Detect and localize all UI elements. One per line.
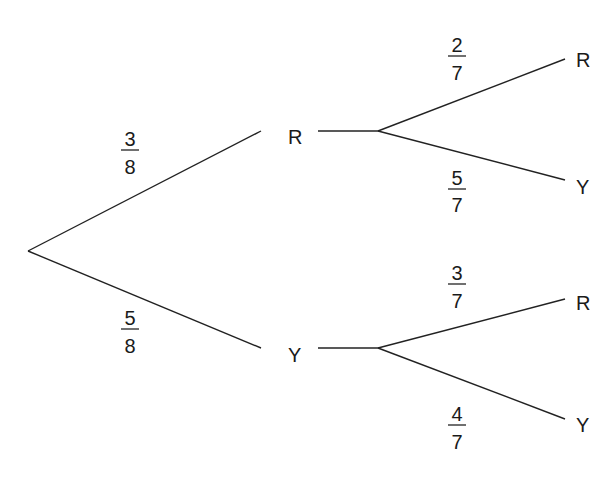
fraction-denominator: 8 xyxy=(124,156,135,178)
fraction-numerator: 3 xyxy=(451,262,462,284)
fraction-numerator: 5 xyxy=(451,167,462,189)
fraction-numerator: 2 xyxy=(451,34,462,56)
node-first-Y: Y xyxy=(288,344,301,366)
probability-tree-diagram: 1st Selection 2nd Selection 3 8 5 8 R Y … xyxy=(0,0,608,478)
node-R-R: R xyxy=(576,49,590,71)
fraction-denominator: 7 xyxy=(451,194,462,216)
node-Y-Y: Y xyxy=(576,414,589,436)
fraction-denominator: 7 xyxy=(451,431,462,453)
edge-root-to-Y xyxy=(28,251,261,348)
edge-R-to-R xyxy=(378,59,565,131)
fraction-Y-R: 3 7 xyxy=(448,262,466,312)
fraction-R-R: 2 7 xyxy=(448,34,466,84)
fraction-first-R: 3 8 xyxy=(121,128,139,178)
edge-Y-to-R xyxy=(378,299,565,348)
fraction-numerator: 5 xyxy=(124,307,135,329)
edge-root-to-R xyxy=(28,131,261,251)
fraction-first-Y: 5 8 xyxy=(121,307,139,357)
edge-R-to-Y xyxy=(378,131,565,180)
fraction-denominator: 7 xyxy=(451,290,462,312)
fraction-numerator: 3 xyxy=(124,128,135,150)
node-R-Y: Y xyxy=(576,176,589,198)
fraction-R-Y: 5 7 xyxy=(448,167,466,216)
node-Y-R: R xyxy=(576,292,590,314)
fraction-Y-Y: 4 7 xyxy=(448,403,466,453)
node-first-R: R xyxy=(288,126,302,148)
fraction-numerator: 4 xyxy=(451,403,462,425)
fraction-denominator: 7 xyxy=(451,62,462,84)
fraction-denominator: 8 xyxy=(124,335,135,357)
edge-Y-to-Y xyxy=(378,348,565,419)
